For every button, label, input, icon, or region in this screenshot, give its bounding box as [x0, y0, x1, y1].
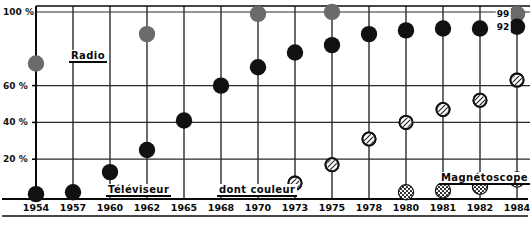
marker-televiseur	[361, 26, 377, 42]
marker-televiseur	[287, 44, 303, 60]
marker-dont-couleur	[473, 94, 486, 107]
marker-televiseur	[250, 59, 266, 75]
marker-dont-couleur	[325, 158, 338, 171]
marker-televiseur	[65, 184, 81, 200]
marker-televiseur	[509, 19, 525, 35]
x-tick-label: 1962	[134, 202, 160, 213]
marker-radio	[324, 4, 340, 20]
marker-dont-couleur	[362, 132, 375, 145]
chart-plot-area: 100 %60 %40 %20 % 1954195719601962196519…	[0, 0, 530, 226]
chart-screenshot: 100 %60 %40 %20 % 1954195719601962196519…	[0, 0, 530, 226]
marker-radio	[28, 55, 44, 71]
marker-televiseur	[472, 20, 488, 36]
series-label-magnetoscope: Magnétoscope	[439, 172, 530, 185]
x-tick-label: 1970	[245, 202, 271, 213]
series-label-radio: Radio	[69, 50, 107, 63]
series-label-televiseur: Téléviseur	[106, 184, 171, 197]
marker-televiseur	[324, 37, 340, 53]
x-tick-label: 1984	[504, 202, 530, 213]
marker-magnetoscope	[398, 185, 413, 200]
x-tick-label: 1973	[282, 202, 308, 213]
x-tick-label: 1975	[319, 202, 345, 213]
y-tick-label: 20 %	[2, 154, 29, 164]
marker-televiseur	[28, 186, 44, 202]
value-annotation: 99	[496, 9, 511, 19]
marker-televiseur	[213, 77, 229, 93]
series-label-dont-couleur: dont couleur	[217, 184, 297, 197]
x-tick-label: 1978	[356, 202, 382, 213]
x-tick-label: 1980	[393, 202, 419, 213]
marker-televiseur	[398, 22, 414, 38]
marker-televiseur	[176, 112, 192, 128]
y-tick-label: 60 %	[2, 81, 29, 91]
x-tick-label: 1954	[23, 202, 49, 213]
y-tick-label: 100 %	[2, 7, 35, 17]
marker-radio	[139, 26, 155, 42]
x-tick-label: 1965	[171, 202, 197, 213]
x-tick-label: 1960	[97, 202, 123, 213]
x-tick-label: 1968	[208, 202, 234, 213]
value-annotation: 92	[496, 22, 511, 32]
marker-radio	[250, 6, 266, 22]
marker-televiseur	[102, 164, 118, 180]
marker-dont-couleur	[510, 73, 523, 86]
marker-dont-couleur	[436, 103, 449, 116]
marker-televiseur	[139, 142, 155, 158]
x-tick-label: 1982	[467, 202, 493, 213]
y-tick-label: 40 %	[2, 117, 29, 127]
marker-televiseur	[435, 20, 451, 36]
x-tick-label: 1981	[430, 202, 456, 213]
marker-dont-couleur	[399, 116, 412, 129]
marker-magnetoscope	[435, 183, 450, 198]
x-tick-label: 1957	[60, 202, 86, 213]
